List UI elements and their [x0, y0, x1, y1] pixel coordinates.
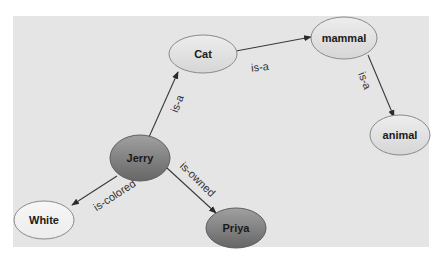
node-label: White: [29, 214, 59, 226]
node-label: Priya: [223, 222, 251, 234]
semantic-network-diagram: is-ais-ais-ais-coloredis-owned Catmammal…: [0, 0, 443, 263]
node-jerry: Jerry: [110, 135, 170, 181]
node-priya: Priya: [206, 208, 266, 248]
node-white: White: [14, 201, 74, 239]
node-cat: Cat: [169, 35, 237, 73]
node-label: mammal: [322, 32, 367, 44]
node-animal: animal: [370, 115, 430, 155]
node-mammal: mammal: [311, 17, 377, 59]
edge-label: is-a: [250, 60, 270, 74]
node-label: Jerry: [127, 152, 155, 164]
node-label: animal: [383, 129, 418, 141]
node-label: Cat: [194, 48, 212, 60]
